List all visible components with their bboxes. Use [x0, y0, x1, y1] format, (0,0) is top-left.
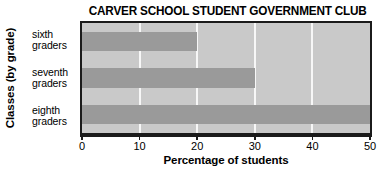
bar-chart-figure: CARVER SCHOOL STUDENT GOVERNMENT CLUB Cl… — [0, 0, 389, 171]
category-tick-labels: sixth graders seventh graders eighth gra… — [20, 21, 79, 135]
category-label-line-2: graders — [32, 40, 79, 52]
x-axis-label: Percentage of students — [80, 153, 372, 168]
x-tick-label-10: 10 — [133, 140, 145, 153]
x-axis-line — [80, 135, 372, 137]
x-tick-label-20: 20 — [191, 140, 203, 153]
x-tick-label-30: 30 — [249, 140, 261, 153]
y-axis-label-container: Classes (by grade) — [0, 21, 20, 135]
category-label-eighth-graders: eighth graders — [20, 97, 79, 135]
category-label-line-2: graders — [32, 116, 79, 128]
y-axis-label: Classes (by grade) — [4, 28, 16, 128]
plot-inner — [82, 23, 370, 133]
chart-title: CARVER SCHOOL STUDENT GOVERNMENT CLUB — [89, 3, 363, 19]
x-tick-label-40: 40 — [306, 140, 318, 153]
plot-area — [80, 21, 372, 135]
bar-seventh-graders — [82, 68, 255, 87]
bar-eighth-graders — [82, 105, 370, 124]
category-label-sixth-graders: sixth graders — [20, 21, 79, 59]
category-label-line-2: graders — [32, 78, 79, 90]
x-tick-label-50: 50 — [364, 140, 376, 153]
x-tick-label-0: 0 — [79, 140, 85, 153]
bar-sixth-graders — [82, 32, 197, 51]
category-label-seventh-graders: seventh graders — [20, 59, 79, 97]
